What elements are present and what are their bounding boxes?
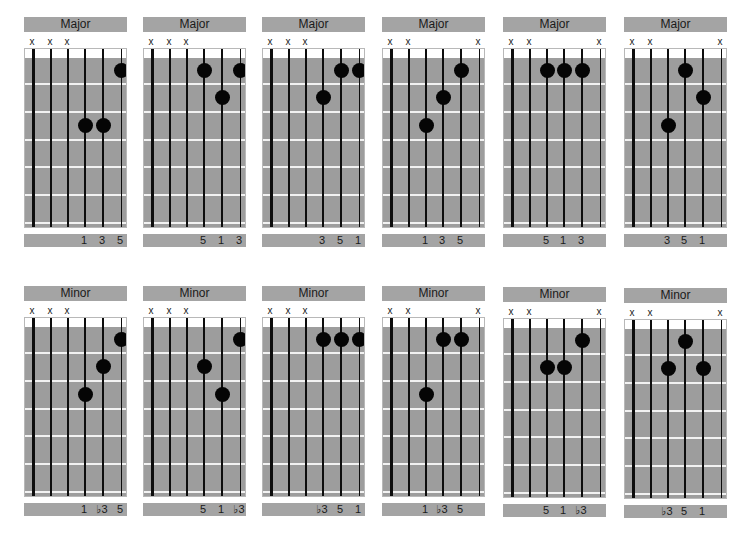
- fretboard-grid: [24, 317, 127, 497]
- scale-degree-label: 1: [694, 234, 710, 247]
- guitar-string-1: [632, 320, 635, 499]
- fret-line: [504, 353, 606, 355]
- mute-marker-icon: x: [385, 36, 395, 48]
- mute-marker-icon: x: [265, 305, 275, 317]
- fret-line: [625, 166, 727, 168]
- scale-degree-label: 5: [195, 503, 211, 516]
- fret-line: [144, 435, 246, 437]
- chord-title: Minor: [382, 286, 485, 301]
- fret-line: [263, 463, 365, 465]
- fret-line: [25, 139, 127, 141]
- finger-dot-icon: [78, 118, 93, 133]
- guitar-string-3: [305, 49, 307, 228]
- scale-degree-label: 1: [350, 503, 366, 516]
- fret-line: [504, 464, 606, 466]
- guitar-string-1: [511, 49, 514, 228]
- finger-dot-icon: [575, 63, 590, 78]
- chord-title: Major: [24, 17, 127, 32]
- scale-degree-label: 5: [538, 504, 554, 517]
- finger-dot-icon: [575, 333, 590, 348]
- guitar-string-2: [529, 49, 532, 228]
- fretboard-grid: [503, 48, 606, 228]
- fret-line: [504, 194, 606, 196]
- fret-line: [144, 491, 246, 493]
- guitar-string-5: [702, 320, 703, 499]
- finger-dot-icon: [96, 359, 111, 374]
- guitar-string-3: [546, 319, 548, 498]
- finger-dot-icon: [96, 118, 111, 133]
- muted-strings-row: xxx: [503, 36, 606, 48]
- scale-degree-label: ♭3: [573, 504, 589, 517]
- fretboard-grid: [382, 317, 485, 497]
- guitar-string-1: [270, 318, 273, 497]
- guitar-string-6: [600, 49, 601, 228]
- scale-degree-label: 3: [231, 234, 247, 247]
- fret-line: [625, 493, 727, 495]
- scale-degree-bar: 1♭35: [382, 503, 485, 516]
- fret-line: [144, 380, 246, 382]
- guitar-string-3: [186, 318, 188, 497]
- fret-line: [383, 463, 485, 465]
- muted-strings-row: xxx: [624, 36, 727, 48]
- fret-line: [625, 194, 727, 196]
- fret-line: [25, 83, 127, 85]
- scale-degree-label: 1: [694, 505, 710, 518]
- finger-dot-icon: [419, 387, 434, 402]
- mute-marker-icon: x: [27, 305, 37, 317]
- guitar-string-3: [667, 49, 669, 228]
- guitar-string-3: [305, 318, 307, 497]
- muted-strings-row: xxx: [143, 36, 246, 48]
- finger-dot-icon: [352, 332, 366, 347]
- scale-degree-label: 1: [76, 503, 92, 516]
- fret-line: [625, 111, 727, 113]
- mute-marker-icon: x: [715, 307, 725, 319]
- scale-degree-label: 1: [213, 234, 229, 247]
- guitar-string-1: [390, 49, 393, 228]
- fret-line: [263, 83, 365, 85]
- fret-line: [504, 111, 606, 113]
- guitar-string-4: [84, 49, 86, 228]
- fret-line: [383, 194, 485, 196]
- mute-marker-icon: x: [645, 307, 655, 319]
- scale-degree-label: 1: [417, 503, 433, 516]
- mute-marker-icon: x: [594, 306, 604, 318]
- finger-dot-icon: [233, 332, 247, 347]
- fret-line: [504, 492, 606, 494]
- scale-degree-bar: 351: [262, 234, 365, 247]
- scale-degree-bar: 351: [624, 234, 727, 247]
- mute-marker-icon: x: [62, 305, 72, 317]
- mute-marker-icon: x: [164, 305, 174, 317]
- guitar-string-2: [408, 49, 411, 228]
- scale-degree-bar: ♭351: [262, 503, 365, 516]
- finger-dot-icon: [419, 118, 434, 133]
- guitar-string-2: [50, 318, 53, 497]
- finger-dot-icon: [678, 63, 693, 78]
- finger-dot-icon: [696, 361, 711, 376]
- mute-marker-icon: x: [62, 36, 72, 48]
- chord-title: Minor: [624, 288, 727, 303]
- fret-line: [25, 435, 127, 437]
- fret-line: [144, 463, 246, 465]
- finger-dot-icon: [454, 63, 469, 78]
- scale-degree-label: 1: [350, 234, 366, 247]
- fret-line: [625, 382, 727, 384]
- finger-dot-icon: [114, 332, 128, 347]
- guitar-string-1: [390, 318, 393, 497]
- guitar-string-3: [425, 49, 427, 228]
- scale-degree-bar: 135: [24, 234, 127, 247]
- chord-title: Major: [143, 17, 246, 32]
- muted-strings-row: xxx: [262, 36, 365, 48]
- guitar-string-6: [479, 318, 480, 497]
- guitar-string-6: [721, 49, 722, 228]
- fretboard-grid: [143, 48, 246, 228]
- scale-degree-label: 5: [538, 234, 554, 247]
- scale-degree-label: 5: [452, 503, 468, 516]
- guitar-string-6: [721, 320, 722, 499]
- guitar-string-5: [102, 318, 103, 497]
- scale-degree-label: 1: [76, 234, 92, 247]
- chord-title: Major: [382, 17, 485, 32]
- guitar-string-1: [632, 49, 635, 228]
- finger-dot-icon: [454, 332, 469, 347]
- scale-degree-label: 3: [434, 234, 450, 247]
- fret-line: [263, 166, 365, 168]
